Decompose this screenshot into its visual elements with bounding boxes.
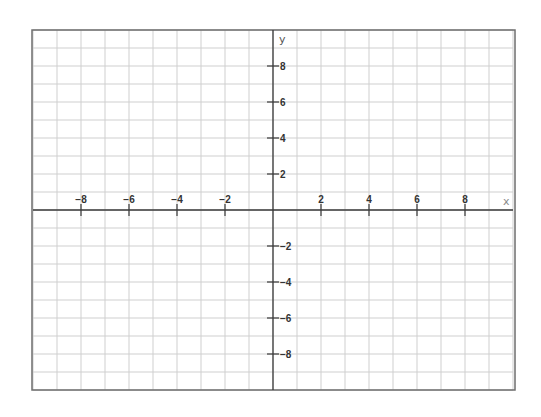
y-tick-label: −2 — [280, 241, 292, 252]
y-tick-label: −6 — [280, 313, 292, 324]
x-tick-label: −8 — [75, 194, 87, 205]
x-tick-label: −6 — [123, 194, 135, 205]
coordinate-plane: −8−6−4−22468 8642−2−4−6−8 x y — [0, 0, 541, 417]
y-tick-label: 4 — [280, 133, 286, 144]
y-tick-label: 2 — [280, 169, 286, 180]
x-tick-label: −2 — [219, 194, 231, 205]
x-tick-label: −4 — [171, 194, 183, 205]
x-tick-label: 4 — [366, 194, 372, 205]
x-tick-label: 6 — [414, 194, 420, 205]
x-tick-label: 8 — [462, 194, 468, 205]
y-tick-label: 8 — [280, 61, 286, 72]
y-axis-label: y — [279, 33, 286, 46]
y-tick-label: −4 — [280, 277, 292, 288]
x-axis-label: x — [503, 195, 510, 208]
x-axis-ticks: −8−6−4−22468 — [75, 194, 468, 216]
x-tick-label: 2 — [318, 194, 324, 205]
y-tick-label: −8 — [280, 349, 292, 360]
y-tick-label: 6 — [280, 97, 286, 108]
